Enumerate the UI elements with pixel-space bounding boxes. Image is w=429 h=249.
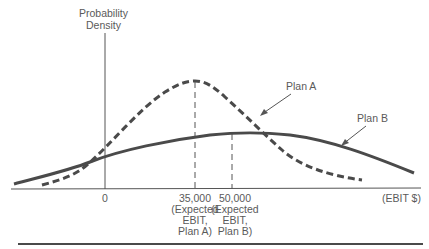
plan-a-arrowhead-icon bbox=[260, 109, 268, 116]
plan-b-label: Plan B bbox=[357, 113, 388, 124]
plan-b-curve bbox=[14, 133, 414, 184]
tick-note-b-3: Plan B) bbox=[200, 226, 270, 237]
plan-a-label: Plan A bbox=[286, 81, 316, 92]
plan-a-curve bbox=[42, 81, 362, 185]
plan-a-arrow bbox=[262, 94, 291, 114]
y-axis-label-line1: Probability bbox=[79, 8, 128, 19]
x-axis bbox=[11, 188, 421, 189]
x-axis-label: (EBIT $) bbox=[382, 193, 421, 204]
y-axis-label-line2: Density bbox=[86, 20, 121, 31]
tick-label-zero: 0 bbox=[102, 193, 108, 204]
bottom-divider bbox=[18, 243, 423, 245]
